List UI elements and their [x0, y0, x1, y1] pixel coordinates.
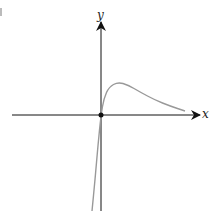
curve [92, 83, 185, 211]
x-axis-label: x [202, 107, 209, 121]
plot-area [0, 0, 218, 211]
origin-point [99, 113, 104, 118]
y-axis-label: y [97, 8, 104, 22]
